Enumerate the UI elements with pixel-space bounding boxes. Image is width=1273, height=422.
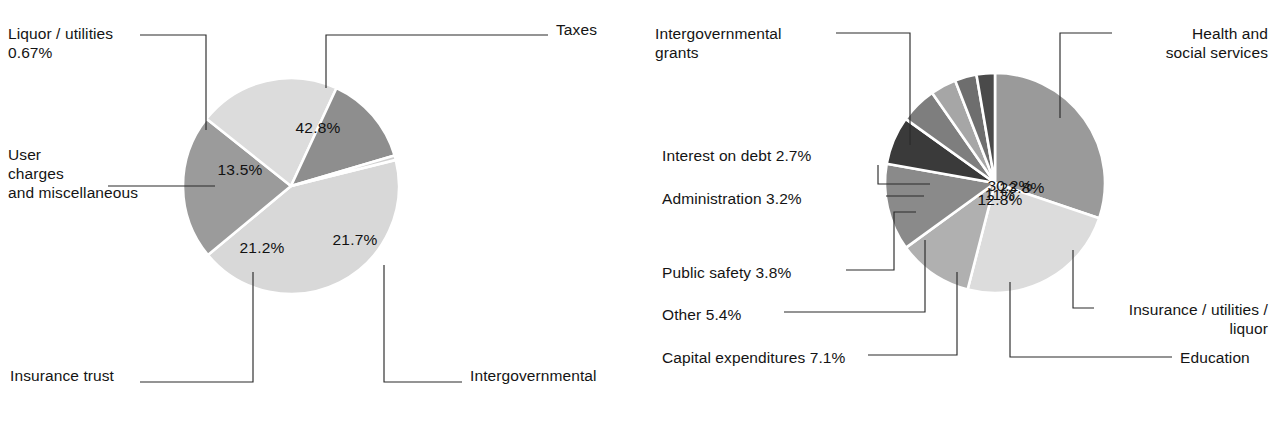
figure-canvas: TaxesLiquor / utilities 0.67%User charge… xyxy=(0,0,1273,422)
pie-charts-svg xyxy=(0,0,1273,422)
callout-label-insurance-trust: Insurance trust xyxy=(10,366,140,385)
slice-value-taxes: 42.8% xyxy=(296,119,341,137)
callout-label-public-safety: Public safety 3.8% xyxy=(662,263,862,282)
callout-label-health-and-social-services: Health and social services xyxy=(1120,24,1268,62)
leader-line-intergovernmental xyxy=(384,265,462,382)
leader-line-insurance-trust xyxy=(140,272,253,382)
leader-line-taxes xyxy=(326,35,548,88)
callout-label-insurance-utilities-liquor: Insurance / utilities / liquor xyxy=(1100,300,1268,338)
callout-label-liquor-utilities: Liquor / utilities 0.67% xyxy=(8,24,158,62)
callout-label-interest-on-debt: Interest on debt 2.7% xyxy=(662,146,862,165)
callout-label-taxes: Taxes xyxy=(556,20,636,39)
slice-value-education: 12.8% xyxy=(978,191,1023,209)
slice-value-intergovernmental: 21.7% xyxy=(333,231,378,249)
callout-label-other: Other 5.4% xyxy=(662,305,862,324)
callout-label-education: Education xyxy=(1180,348,1270,367)
callout-label-administration: Administration 3.2% xyxy=(662,189,862,208)
pie-slices-layer xyxy=(183,73,1105,294)
callout-label-intergovernmental: Intergovernmental xyxy=(470,366,640,385)
slice-value-user-charges-and-miscellaneous: 13.5% xyxy=(218,161,263,179)
leader-line-capital-expenditures xyxy=(868,272,957,355)
slice-value-insurance-trust: 21.2% xyxy=(240,239,285,257)
callout-label-capital-expenditures: Capital expenditures 7.1% xyxy=(662,348,892,367)
callout-label-intergovernmental-grants: Intergovernmental grants xyxy=(655,24,825,62)
callout-label-user-charges: User charges and miscellaneous xyxy=(8,145,188,202)
